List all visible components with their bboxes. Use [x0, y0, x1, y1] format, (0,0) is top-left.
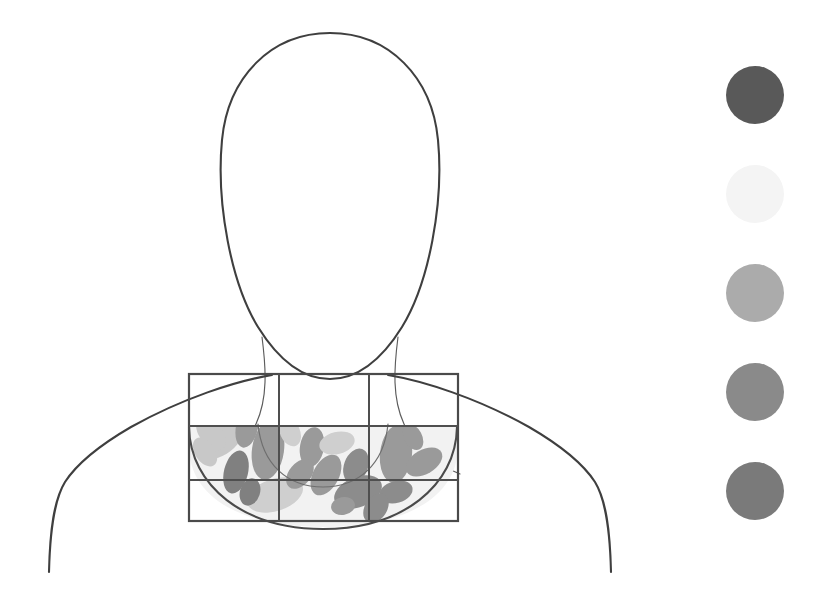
grid-cell[interactable]: [189, 374, 279, 426]
figure-root: Anterior chest region mapping diagram Ou…: [0, 0, 834, 610]
legend-swatch[interactable]: [726, 264, 784, 322]
head-outline: [221, 33, 440, 379]
chest-region-grid: [189, 374, 458, 521]
legend-swatch[interactable]: [726, 165, 784, 223]
grid-cell[interactable]: [279, 480, 369, 521]
grid-cell[interactable]: [189, 480, 279, 521]
grid-cell[interactable]: [369, 426, 458, 480]
grid-cell[interactable]: [279, 374, 369, 426]
legend-swatch[interactable]: [726, 363, 784, 421]
grid-cell[interactable]: [369, 480, 458, 521]
grayscale-legend: [726, 66, 784, 520]
grid-cell[interactable]: [369, 374, 458, 426]
legend-swatch[interactable]: [726, 462, 784, 520]
legend-swatch[interactable]: [726, 66, 784, 124]
grid-cell[interactable]: [279, 426, 369, 480]
anatomical-diagram-canvas: Anterior chest region mapping diagram Ou…: [0, 0, 834, 610]
grid-cell[interactable]: [189, 426, 279, 480]
